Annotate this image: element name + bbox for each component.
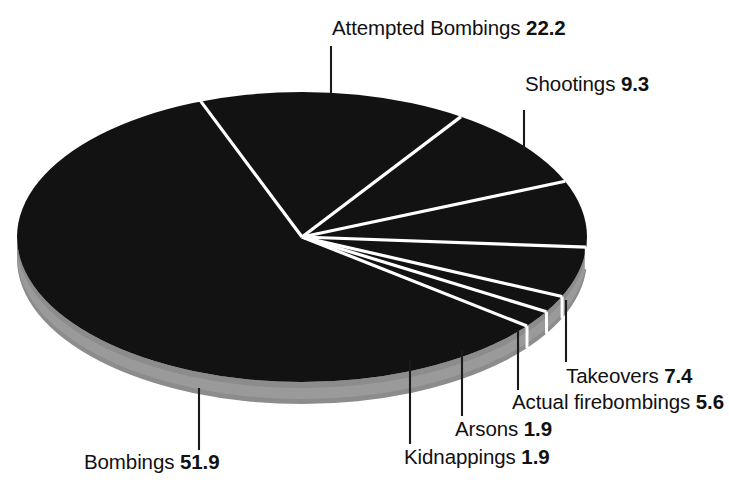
pie-chart-figure: Attempted Bombings 22.2 Shootings 9.3 Ta…: [0, 0, 729, 500]
label-takeovers-value: 7.4: [664, 364, 692, 387]
label-kidnappings: Kidnappings 1.9: [404, 447, 550, 468]
label-attempted-bombings-name: Attempted Bombings: [332, 16, 521, 39]
label-takeovers-name: Takeovers: [566, 364, 659, 387]
label-bombings: Bombings 51.9: [84, 452, 219, 473]
label-bombings-value: 51.9: [180, 450, 220, 473]
label-arsons-name: Arsons: [455, 417, 518, 440]
label-actual-firebombings-name: Actual firebombings: [512, 390, 690, 413]
label-attempted-bombings: Attempted Bombings 22.2: [332, 18, 566, 39]
label-kidnappings-value: 1.9: [521, 445, 549, 468]
label-shootings-value: 9.3: [621, 72, 649, 95]
label-shootings: Shootings 9.3: [525, 74, 649, 95]
label-bombings-name: Bombings: [84, 450, 174, 473]
label-arsons: Arsons 1.9: [455, 419, 552, 440]
label-takeovers: Takeovers 7.4: [566, 366, 692, 387]
label-actual-firebombings-value: 5.6: [696, 390, 724, 413]
label-kidnappings-name: Kidnappings: [404, 445, 516, 468]
label-shootings-name: Shootings: [525, 72, 615, 95]
label-attempted-bombings-value: 22.2: [526, 16, 566, 39]
label-arsons-value: 1.9: [524, 417, 552, 440]
label-actual-firebombings: Actual firebombings 5.6: [512, 392, 724, 413]
